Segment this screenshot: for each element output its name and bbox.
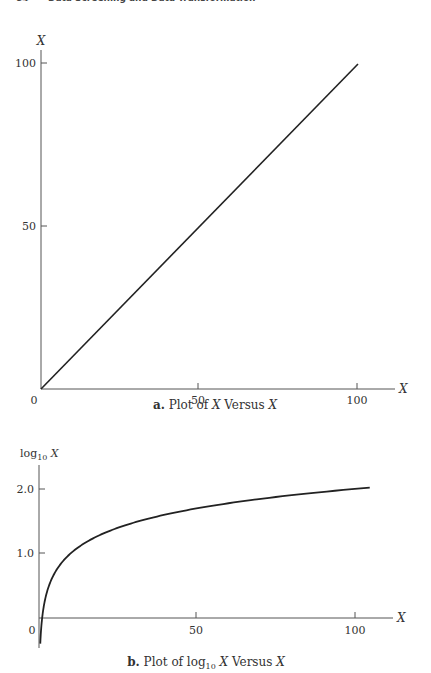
chart-a-line-series	[41, 64, 358, 389]
figure-canvas: 100 50 0 50 100 X X a. Plot of X Versus …	[0, 0, 431, 673]
chart-b-y-tick-label: 1.0	[17, 547, 35, 560]
chart-a-x-tick-label: 100	[347, 394, 368, 407]
chart-a-x-label: X	[398, 382, 408, 396]
chart-b-x-tick-label: 0	[29, 624, 36, 637]
chart-b-y-tick-label: 2.0	[17, 483, 35, 496]
chart-b-line-series	[40, 488, 369, 644]
chart-a-y-tick-label: 100	[15, 57, 36, 70]
chart-a-y-tick-label: 50	[22, 220, 36, 233]
chart-a-caption: a. Plot of X Versus X	[153, 398, 278, 412]
chart-b-caption: b. Plot of log10 X Versus X	[127, 655, 285, 671]
chart-b-x-tick-label: 100	[345, 624, 366, 637]
chart-a-x-tick-label: 0	[31, 394, 38, 407]
chart-a: 100 50 0 50 100 X X a. Plot of X Versus …	[15, 34, 408, 412]
chart-b-y-label: log10 X	[20, 447, 60, 462]
chart-a-y-label: X	[36, 34, 46, 48]
chart-b-x-tick-label: 50	[189, 624, 203, 637]
chart-b: 2.0 1.0 0 50 100 log10 X X b. Plot of lo…	[17, 447, 407, 671]
chart-b-x-label: X	[396, 611, 406, 625]
